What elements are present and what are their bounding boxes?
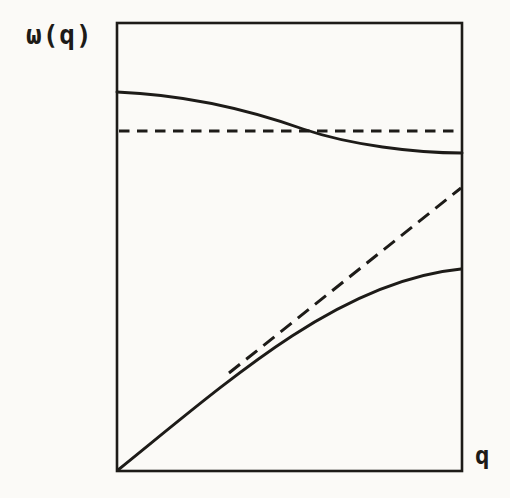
x-axis-label: q — [475, 442, 490, 470]
y-axis-label: ω(q) — [26, 20, 93, 50]
paper-background — [0, 0, 510, 498]
dispersion-figure: ω(q) q — [0, 0, 510, 498]
dispersion-plot-canvas — [0, 0, 510, 498]
